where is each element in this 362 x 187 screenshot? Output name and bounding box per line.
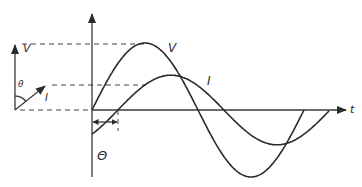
phasor-waveform-diagram: V θ I t V I Θ xyxy=(0,0,362,187)
current-phasor-arrow xyxy=(15,86,45,110)
phase-angle-label: θ xyxy=(18,79,24,89)
voltage-waveform-label: V xyxy=(168,41,177,55)
current-waveform-label: I xyxy=(207,74,211,88)
phasor-diagram: V θ I xyxy=(15,42,48,110)
time-axis-label: t xyxy=(350,103,355,116)
phase-shift-label: Θ xyxy=(97,148,107,163)
current-phasor-label: I xyxy=(45,92,48,103)
phase-shift-marker: Θ xyxy=(93,110,118,163)
phase-angle-arc xyxy=(15,96,26,102)
